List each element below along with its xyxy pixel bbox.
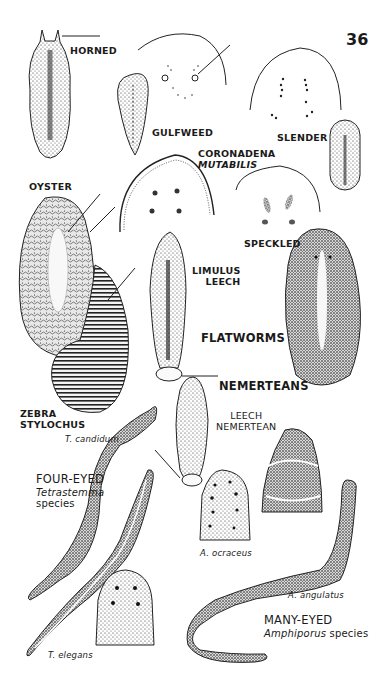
label-coronadena: CORONADENA MUTABILIS bbox=[198, 148, 275, 170]
label-amphiporus: Amphiporus bbox=[264, 628, 326, 639]
section-heading-nemerteans: NEMERTEANS bbox=[219, 381, 309, 392]
label-leech-nemertean: LEECH NEMERTEAN bbox=[216, 410, 276, 432]
label-coronadena-line2: MUTABILIS bbox=[198, 159, 275, 170]
label-t-elegans: T. elegans bbox=[48, 650, 93, 661]
illustrations bbox=[0, 0, 380, 692]
limulus-leech-figure bbox=[150, 232, 218, 381]
label-limulus-line2: LEECH bbox=[192, 276, 240, 287]
label-limulus-leech: LIMULUS LEECH bbox=[192, 265, 240, 287]
field-guide-plate: 36 HORNED GULFWEED SLENDER CORONADENA MU… bbox=[0, 0, 380, 692]
label-amphiporus-line: Amphiporus species bbox=[264, 628, 368, 639]
label-oyster: OYSTER bbox=[29, 181, 72, 192]
label-t-candidum: T. candidum bbox=[65, 434, 119, 445]
label-zebra-line2: STYLOCHUS bbox=[20, 419, 85, 430]
section-heading-flatworms: FLATWORMS bbox=[201, 333, 285, 344]
label-limulus-line1: LIMULUS bbox=[192, 265, 240, 276]
label-gulfweed: GULFWEED bbox=[152, 127, 213, 138]
label-zebra-line1: ZEBRA bbox=[20, 408, 85, 419]
label-speckled: SPECKLED bbox=[244, 238, 301, 249]
label-zebra-stylochus: ZEBRA STYLOCHUS bbox=[20, 408, 85, 430]
leech-nemertean-figure bbox=[155, 377, 208, 486]
a-ocraceus-head-figure bbox=[200, 470, 250, 540]
label-leech-nemertean-line1: LEECH bbox=[216, 410, 276, 421]
label-four-eyed: FOUR-EYED bbox=[36, 474, 104, 485]
label-four-eyed-group: FOUR-EYED Tetrastemma species bbox=[36, 474, 104, 509]
speckled-flatworm-figure bbox=[236, 166, 320, 225]
page-number: 36 bbox=[346, 30, 368, 49]
label-tetrastemma: Tetrastemma bbox=[36, 487, 104, 498]
label-many-eyed: MANY-EYED bbox=[264, 615, 368, 626]
label-four-eyed-species: species bbox=[36, 498, 104, 509]
label-a-ocraceus: A. ocraceus bbox=[200, 548, 252, 559]
nemertean-head-detail-figure bbox=[262, 429, 322, 512]
label-coronadena-line1: CORONADENA bbox=[198, 148, 275, 159]
label-leech-nemertean-line2: NEMERTEAN bbox=[216, 421, 276, 432]
label-slender: SLENDER bbox=[277, 132, 327, 143]
label-a-angulatus: A. angulatus bbox=[288, 590, 344, 601]
speckled-flatworm-body-figure bbox=[285, 229, 360, 385]
label-many-eyed-species: species bbox=[330, 628, 369, 639]
label-many-eyed-group: MANY-EYED Amphiporus species bbox=[264, 615, 368, 639]
label-horned: HORNED bbox=[70, 45, 117, 56]
